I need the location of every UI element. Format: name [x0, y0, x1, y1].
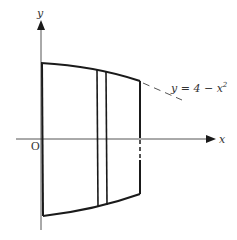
- origin-label: O: [31, 139, 40, 153]
- curve-equation-exponent: 2: [222, 81, 228, 89]
- curve-equation-main: y = 4 − x: [170, 82, 224, 95]
- strip-right-edge: [106, 72, 107, 205]
- curve-equation-label: y = 4 − x2: [170, 81, 228, 95]
- left-edge: [42, 63, 43, 216]
- x-axis-arrow-icon: [206, 135, 216, 143]
- x-axis: x: [16, 133, 226, 146]
- bottom-curve: [43, 194, 140, 216]
- strip-left-edge: [97, 70, 98, 207]
- x-axis-label: x: [219, 133, 226, 146]
- y-axis-label: y: [36, 7, 44, 20]
- y-axis-arrow-icon: [37, 20, 45, 30]
- area-diagram: y x O y = 4 − x2: [0, 0, 237, 240]
- top-curve: [41, 63, 140, 81]
